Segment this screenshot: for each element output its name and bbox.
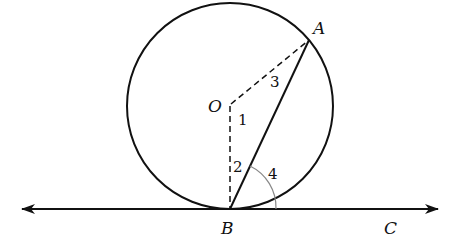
angle-4-label: 4 — [268, 165, 278, 183]
label-a: A — [311, 18, 325, 38]
label-b: B — [220, 218, 234, 238]
angle-3-label: 3 — [270, 73, 280, 91]
geometry-diagram: A O B C 1 2 3 4 — [0, 0, 449, 242]
label-c: C — [384, 218, 397, 238]
angle-1-label: 1 — [238, 111, 248, 129]
angle-2-label: 2 — [233, 158, 243, 176]
radius-oa — [231, 40, 309, 104]
label-o: O — [208, 96, 222, 116]
